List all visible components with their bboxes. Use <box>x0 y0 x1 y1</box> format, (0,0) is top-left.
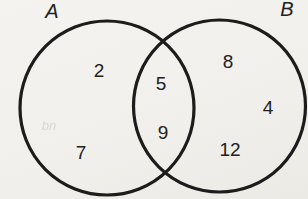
set-b-label: B <box>280 0 293 20</box>
set-b-value-3: 12 <box>219 139 240 160</box>
venn-diagram-stage: A B bn 2 7 5 9 8 4 12 <box>0 0 308 199</box>
venn-diagram: A B bn 2 7 5 9 8 4 12 <box>0 0 308 199</box>
set-b-value-2: 4 <box>263 97 274 118</box>
intersection-value-2: 9 <box>158 122 169 143</box>
circle-b <box>134 20 306 192</box>
set-a-value-1: 2 <box>94 60 105 81</box>
set-b-value-1: 8 <box>223 51 234 72</box>
set-a-label: A <box>44 0 58 22</box>
set-a-value-2: 7 <box>76 142 87 163</box>
intersection-value-1: 5 <box>156 73 167 94</box>
circle-a <box>20 21 194 195</box>
scan-smudge: bn <box>42 118 56 133</box>
